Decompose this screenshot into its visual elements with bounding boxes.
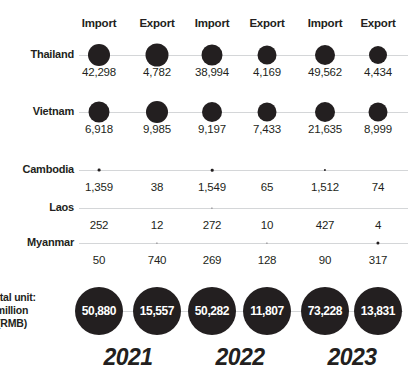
cell-value: 49,562 xyxy=(308,66,342,78)
column-header-0: Import xyxy=(82,17,117,29)
cell-value: 4,169 xyxy=(253,66,281,78)
cell-value: 42,298 xyxy=(82,66,116,78)
bubble-marker xyxy=(88,44,110,66)
total-unit-line-1: Total unit: xyxy=(0,291,72,304)
row-axis-line xyxy=(79,170,408,171)
total-unit-line-3: (RMB) xyxy=(0,317,72,330)
trade-bubble-chart: ImportExportImportExportImportExport Tha… xyxy=(0,0,417,377)
cell-value: 4 xyxy=(375,219,381,231)
cell-value: 7,433 xyxy=(253,123,281,135)
bubble-marker xyxy=(315,45,335,65)
cell-value: 1,512 xyxy=(311,181,339,193)
cell-value: 6,918 xyxy=(85,123,113,135)
row-label-laos: Laos xyxy=(49,201,74,213)
row-axis-line xyxy=(79,208,408,209)
total-bubble-label: 50,880 xyxy=(82,304,116,318)
total-bubble: 50,880 xyxy=(75,287,123,335)
bubble-marker xyxy=(146,44,169,67)
cell-value: 38 xyxy=(151,181,163,193)
column-header-3: Export xyxy=(249,17,284,29)
total-bubble: 73,228 xyxy=(301,287,349,335)
cell-value: 4,434 xyxy=(364,66,392,78)
cell-value: 269 xyxy=(203,254,222,266)
cell-value: 21,635 xyxy=(308,123,342,135)
total-bubble-label: 73,228 xyxy=(308,304,342,318)
bubble-marker xyxy=(211,169,214,172)
cell-value: 272 xyxy=(203,219,222,231)
cell-value: 10 xyxy=(261,219,273,231)
total-bubble: 15,557 xyxy=(133,287,181,335)
bubble-marker xyxy=(376,241,379,244)
row-axis-line xyxy=(79,55,408,56)
year-label: 2022 xyxy=(215,344,264,371)
total-unit-line-2: million xyxy=(0,304,72,317)
cell-value: 4,782 xyxy=(143,66,171,78)
total-bubble-label: 50,282 xyxy=(195,304,229,318)
bubble-marker xyxy=(89,102,110,123)
column-header-1: Export xyxy=(139,17,174,29)
total-bubble-label: 13,831 xyxy=(361,304,395,318)
total-bubble: 11,807 xyxy=(243,287,291,335)
cell-value: 65 xyxy=(261,181,273,193)
total-bubble: 13,831 xyxy=(354,287,402,335)
total-bubble: 50,282 xyxy=(188,287,236,335)
row-label-cambodia: Cambodia xyxy=(22,163,74,175)
cell-value: 74 xyxy=(372,181,384,193)
cell-value: 427 xyxy=(316,219,335,231)
column-header-2: Import xyxy=(195,17,230,29)
column-header-5: Export xyxy=(360,17,395,29)
cell-value: 50 xyxy=(93,254,105,266)
year-label: 2023 xyxy=(327,344,376,371)
row-label-vietnam: Vietnam xyxy=(33,105,74,117)
year-label: 2021 xyxy=(103,344,152,371)
cell-value: 317 xyxy=(369,254,388,266)
total-bubble-label: 11,807 xyxy=(250,304,284,318)
bubble-marker xyxy=(315,102,335,122)
total-unit-note: Total unit: million (RMB) xyxy=(0,291,72,330)
cell-value: 9,985 xyxy=(143,123,171,135)
cell-value: 8,999 xyxy=(364,123,392,135)
cell-value: 740 xyxy=(148,254,167,266)
column-header-4: Import xyxy=(308,17,343,29)
cell-value: 1,359 xyxy=(85,181,113,193)
row-label-thailand: Thailand xyxy=(30,48,74,60)
bubble-marker xyxy=(369,103,388,122)
cell-value: 12 xyxy=(151,219,163,231)
bubble-marker xyxy=(98,169,101,172)
row-axis-line xyxy=(79,243,408,244)
cell-value: 90 xyxy=(319,254,331,266)
bubble-marker xyxy=(369,46,387,64)
cell-value: 252 xyxy=(90,219,109,231)
bubble-marker xyxy=(146,101,168,123)
total-bubble-label: 15,557 xyxy=(140,304,174,318)
bubble-marker xyxy=(258,103,277,122)
bubble-marker xyxy=(202,45,223,66)
cell-value: 128 xyxy=(258,254,277,266)
row-label-myanmar: Myanmar xyxy=(27,236,74,248)
row-axis-line xyxy=(79,112,408,113)
cell-value: 38,994 xyxy=(195,66,229,78)
bubble-marker xyxy=(202,102,222,122)
bubble-marker xyxy=(258,46,277,65)
cell-value: 1,549 xyxy=(198,181,226,193)
cell-value: 9,197 xyxy=(198,123,226,135)
